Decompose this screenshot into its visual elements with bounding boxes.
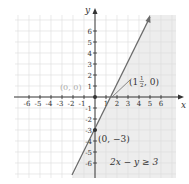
x-tick-label: -6	[24, 100, 31, 108]
y-tick-label: 3	[88, 61, 92, 69]
x-int-whole: (1	[129, 77, 138, 87]
origin-label: (0, 0)	[60, 83, 82, 92]
x-tick-label: 6	[159, 100, 164, 108]
x-tick-label: 4	[137, 100, 142, 108]
x-intercept-label: (1 1 2 , 0)	[129, 75, 159, 88]
line-arrow-icon	[146, 15, 151, 23]
y-intercept-label: (0, −3)	[98, 134, 130, 144]
y-tick-label: -2	[85, 116, 92, 124]
x-tick-label: -4	[46, 100, 53, 108]
x-tick-label: 2	[115, 100, 119, 108]
x-tick-label: -3	[57, 100, 64, 108]
graph-canvas: -6 -5 -4 -3 -2 -1 1 2 3 4 5 6 6 5 4 3 2 …	[0, 0, 189, 184]
x-axis-arrow-icon	[178, 95, 184, 100]
point-y-intercept	[93, 128, 97, 132]
y-tick-label: 2	[88, 72, 92, 80]
y-tick-label: -3	[85, 127, 92, 135]
x-tick-label: 5	[148, 100, 152, 108]
x-tick-label: -2	[68, 100, 75, 108]
y-tick-label: -1	[85, 105, 92, 113]
y-axis-arrow-icon	[93, 8, 98, 14]
x-tick-label: -5	[35, 100, 42, 108]
x-tick-label: 3	[126, 100, 130, 108]
y-tick-label: -6	[85, 160, 92, 168]
y-axis-label: y	[84, 5, 91, 15]
y-tick-label: 6	[88, 28, 93, 36]
x-int-rest: , 0)	[144, 77, 159, 87]
y-tick-label: 4	[88, 50, 93, 58]
x-int-numerator: 1	[140, 75, 144, 81]
point-origin	[93, 95, 97, 99]
x-axis-label: x	[181, 100, 186, 110]
y-tick-label: 1	[88, 83, 92, 91]
y-tick-label: 5	[88, 39, 92, 47]
inequality-label: 2x − y ≥ 3	[109, 157, 158, 167]
y-tick-label: -5	[85, 149, 92, 157]
x-int-denominator: 2	[140, 82, 144, 88]
